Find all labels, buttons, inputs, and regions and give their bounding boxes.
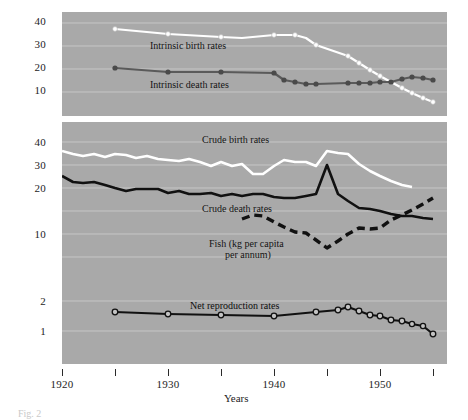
xtick-1940 xyxy=(274,369,275,376)
figure-root: Intrinsic birth rates Intrinsic death ra… xyxy=(0,0,468,420)
xtick-1945 xyxy=(327,369,328,376)
xlabel-1920: 1920 xyxy=(40,379,84,390)
bot-ytick-1: 1 xyxy=(20,326,46,337)
xtick-1935 xyxy=(221,369,222,376)
crude-birth-label: Crude birth rates xyxy=(202,134,269,145)
x-axis-title: Years xyxy=(224,393,249,404)
crude-birth-line xyxy=(62,151,412,187)
intrinsic-rates-plot: Intrinsic birth rates Intrinsic death ra… xyxy=(62,12,447,116)
net-reproduction-panel: Net reproduction rates xyxy=(62,284,447,364)
intrinsic-death-label: Intrinsic death rates xyxy=(150,79,229,90)
crude-death-label: Crude death rates xyxy=(202,203,272,214)
mid-ytick-10: 10 xyxy=(20,229,46,240)
net-reproduction-line xyxy=(115,307,433,334)
crude-rates-panel: Crude birth rates Crude death rates Fish… xyxy=(62,122,447,284)
intrinsic-birth-markers xyxy=(113,27,436,105)
xtick-1930 xyxy=(168,369,169,376)
xlabel-1930: 1930 xyxy=(146,379,190,390)
xtick-1920 xyxy=(62,369,63,376)
fish-label-line2: per annum) xyxy=(225,249,271,261)
intrinsic-birth-label: Intrinsic birth rates xyxy=(150,40,226,51)
top-ytick-30: 30 xyxy=(20,39,46,50)
bot-ytick-2: 2 xyxy=(20,296,46,307)
mid-ytick-20: 20 xyxy=(20,183,46,194)
xlabel-1950: 1950 xyxy=(358,379,402,390)
xtick-1955 xyxy=(433,369,434,376)
mid-ytick-40: 40 xyxy=(20,137,46,148)
crude-rates-plot: Crude birth rates Crude death rates Fish… xyxy=(62,122,447,284)
xtick-1950 xyxy=(380,369,381,376)
net-reproduction-label: Net reproduction rates xyxy=(190,300,280,311)
top-ytick-10: 10 xyxy=(20,85,46,96)
figure-caption: Fig. 2 xyxy=(18,409,41,419)
top-ytick-40: 40 xyxy=(20,16,46,27)
intrinsic-rates-panel: Intrinsic birth rates Intrinsic death ra… xyxy=(62,12,447,116)
xtick-1925 xyxy=(115,369,116,376)
top-ytick-20: 20 xyxy=(20,62,46,73)
xlabel-1940: 1940 xyxy=(252,379,296,390)
net-reproduction-plot: Net reproduction rates xyxy=(62,284,447,364)
mid-ytick-30: 30 xyxy=(20,160,46,171)
